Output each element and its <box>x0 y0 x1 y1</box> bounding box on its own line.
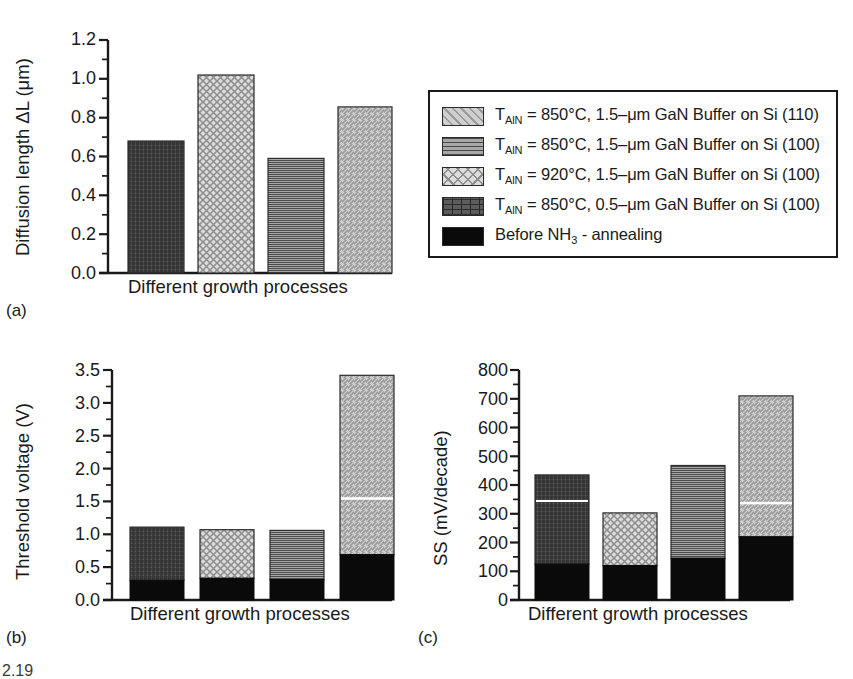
legend-item-1[interactable]: TAlN = 850°C, 1.5–μm GaN Buffer on Si (1… <box>442 131 836 161</box>
bar-c-1-black <box>535 564 589 600</box>
panel-c-bars <box>535 396 793 600</box>
panel-a-diffusion-length: Diffusion length ΔL (μm) <box>0 18 420 318</box>
panel-b-threshold-voltage: Threshold voltage (V) <box>0 348 420 648</box>
panel-a-ytick-4: 0.8 <box>44 107 96 128</box>
panel-c-ytick-2: 200 <box>458 533 508 554</box>
legend-label-4: Before NH3 - annealing <box>495 225 662 246</box>
panel-a-ytick-2: 0.4 <box>44 185 96 206</box>
bar-c-4-top <box>739 396 793 537</box>
panel-c-ytick-8: 800 <box>458 360 508 381</box>
panel-a-ytick-0: 0.0 <box>44 263 96 284</box>
bar-b-1-black <box>130 580 184 600</box>
panel-a-bars <box>128 75 392 273</box>
bar-b-2-top <box>200 530 254 579</box>
legend-label-3: TAlN = 850°C, 0.5–μm GaN Buffer on Si (1… <box>495 195 820 216</box>
bar-b-3-top <box>270 530 324 579</box>
bar-b-1-top <box>130 527 184 580</box>
legend-item-2[interactable]: TAlN = 920°C, 1.5–μm GaN Buffer on Si (1… <box>442 161 836 191</box>
bar-b-4-top <box>340 375 394 554</box>
panel-b-ytick-2: 1.0 <box>46 524 100 545</box>
bar-c-2-black <box>603 566 657 601</box>
panel-c-subthreshold-swing: SS (mV/decade) <box>418 348 853 648</box>
legend-item-0[interactable]: TAlN = 850°C, 1.5–μm GaN Buffer on Si (1… <box>442 101 836 131</box>
bar-a-2 <box>198 75 254 273</box>
panel-b-ytick-4: 2.0 <box>46 459 100 480</box>
legend-label-1: TAlN = 850°C, 1.5–μm GaN Buffer on Si (1… <box>495 135 820 156</box>
bar-c-3-top <box>671 466 725 559</box>
panel-c-ytick-6: 600 <box>458 418 508 439</box>
legend-swatch-grid-hatch-icon <box>442 197 484 216</box>
legend: TAlN = 850°C, 1.5–μm GaN Buffer on Si (1… <box>428 90 838 258</box>
bar-c-1-top <box>535 475 589 564</box>
panel-b-ytick-1: 0.5 <box>46 557 100 578</box>
panel-a-ytick-3: 0.6 <box>44 146 96 167</box>
panel-c-ytick-4: 400 <box>458 475 508 496</box>
panel-b-letter: (b) <box>6 628 27 648</box>
legend-swatch-solid-black-icon <box>442 227 484 246</box>
panel-b-ytick-3: 1.5 <box>46 491 100 512</box>
bar-a-4 <box>338 107 392 273</box>
panel-a-major-ticks <box>99 40 108 273</box>
legend-label-0: TAlN = 850°C, 1.5–μm GaN Buffer on Si (1… <box>495 105 819 126</box>
panel-a-ytick-1: 0.2 <box>44 224 96 245</box>
legend-swatch-diagonal-hatch-icon <box>442 107 484 126</box>
panel-c-ytick-5: 500 <box>458 447 508 468</box>
panel-a-letter: (a) <box>6 301 27 321</box>
figure-caption-fragment: 2.19 <box>2 662 33 679</box>
panel-c-x-axis-title: Different growth processes <box>528 603 748 625</box>
panel-c-ytick-1: 100 <box>458 561 508 582</box>
legend-label-2: TAlN = 920°C, 1.5–μm GaN Buffer on Si (1… <box>495 165 820 186</box>
panel-b-bars <box>130 375 394 600</box>
bar-c-4-black <box>739 537 793 600</box>
bar-a-3 <box>268 158 324 273</box>
panel-a-ytick-5: 1.0 <box>44 68 96 89</box>
legend-swatch-cross-hatch-x-icon <box>442 167 484 186</box>
panel-c-major-ticks <box>510 370 519 600</box>
panel-a-ytick-6: 1.2 <box>44 29 96 50</box>
panel-c-ytick-0: 0 <box>458 590 508 611</box>
bar-b-3-black <box>270 580 324 600</box>
panel-b-ytick-7: 3.5 <box>46 360 100 381</box>
legend-item-3[interactable]: TAlN = 850°C, 0.5–μm GaN Buffer on Si (1… <box>442 191 836 221</box>
panel-c-ytick-7: 700 <box>458 389 508 410</box>
legend-swatch-horizontal-lines-icon <box>442 137 484 156</box>
panel-b-y-axis-title: Threshold voltage (V) <box>12 403 34 580</box>
panel-c-ytick-3: 300 <box>458 504 508 525</box>
bar-a-1 <box>128 141 184 273</box>
panel-a-y-axis-title: Diffusion length ΔL (μm) <box>12 58 34 256</box>
legend-item-4[interactable]: Before NH3 - annealing <box>442 221 836 251</box>
panel-b-ytick-5: 2.5 <box>46 426 100 447</box>
panel-c-letter: (c) <box>418 628 438 648</box>
bar-c-2-top <box>603 513 657 566</box>
bar-c-3-black <box>671 558 725 600</box>
panel-b-ytick-0: 0.0 <box>46 590 100 611</box>
panel-b-x-axis-title: Different growth processes <box>130 603 350 625</box>
bar-b-2-black <box>200 578 254 600</box>
panel-c-y-axis-title: SS (mV/decade) <box>430 430 452 566</box>
panel-a-x-axis-title: Different growth processes <box>128 276 348 298</box>
panel-b-ytick-6: 3.0 <box>46 393 100 414</box>
bar-b-4-black <box>340 555 394 600</box>
